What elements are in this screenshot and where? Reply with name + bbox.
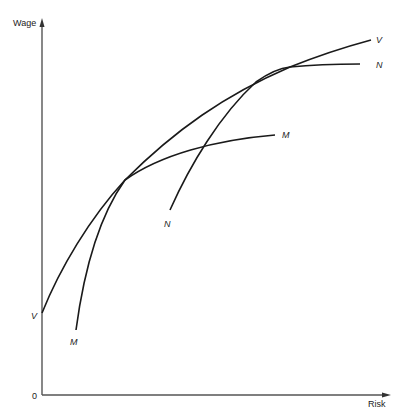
- curve-v-start-label: V: [31, 311, 38, 321]
- x-axis-arrow-icon: [382, 393, 391, 398]
- y-axis-arrow-icon: [40, 18, 45, 27]
- curve-m-start-label: M: [70, 337, 78, 347]
- curve-n-start-label: N: [164, 219, 171, 229]
- curve-n: [170, 64, 360, 210]
- curve-m-end-label: M: [282, 130, 290, 140]
- x-axis-label: Risk: [368, 399, 386, 409]
- curve-v: [42, 40, 371, 313]
- origin-label: 0: [32, 391, 37, 401]
- y-axis-label: Wage: [13, 18, 36, 28]
- curve-m: [76, 135, 275, 330]
- curve-v-end-label: V: [376, 35, 383, 45]
- wage-risk-diagram: Wage Risk 0 V V M M N N: [0, 0, 403, 420]
- curve-n-end-label: N: [376, 60, 383, 70]
